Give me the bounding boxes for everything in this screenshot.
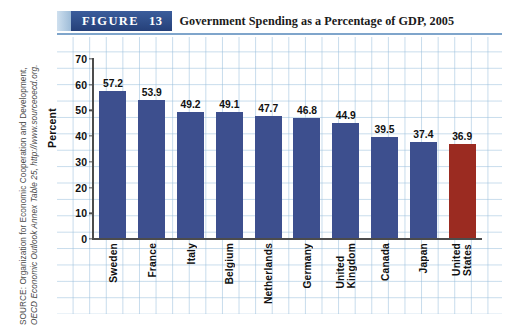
y-tick-mark	[89, 135, 92, 136]
bar-italy: 49.2	[177, 112, 204, 239]
bar-united-states: 36.9	[449, 144, 476, 239]
y-tick-label: 50	[75, 104, 87, 116]
bar-netherlands: 47.7	[255, 116, 282, 239]
x-category-label: States	[462, 243, 473, 276]
y-tick-label: 40	[75, 130, 87, 142]
bar-canada: 39.5	[371, 137, 398, 239]
y-tick-label: 20	[75, 182, 87, 194]
y-tick-label: 10	[75, 207, 87, 219]
figure-badge-number: 13	[149, 14, 163, 29]
x-category-label: United	[451, 243, 462, 276]
figure-title: Government Spending as a Percentage of G…	[172, 11, 502, 31]
y-tick-mark	[89, 58, 92, 59]
y-tick-label: 30	[75, 156, 87, 168]
source-line-2: OECD Economic Outlook Annex Table 25, ht…	[29, 64, 40, 325]
bar-value-label: 53.9	[142, 87, 162, 98]
bar-value-label: 44.9	[336, 110, 356, 121]
bar-value-label: 36.9	[452, 131, 472, 142]
y-tick-mark	[89, 84, 92, 85]
y-tick-label: 60	[75, 79, 87, 91]
x-category-label: Kingdom	[346, 243, 357, 289]
bar-belgium: 49.1	[216, 112, 243, 238]
y-tick-mark	[89, 238, 92, 239]
x-category-label: France	[146, 243, 157, 278]
figure-badge-label: FIGURE	[82, 14, 139, 29]
source-line-1: SOURCE: Organization for Economic Cooper…	[18, 67, 29, 325]
source-note: SOURCE: Organization for Economic Cooper…	[0, 0, 40, 325]
bar-slot: 44.9	[326, 58, 365, 238]
x-category-label: Sweden	[107, 243, 118, 283]
x-category: Belgium	[210, 243, 249, 313]
y-tick-mark	[89, 213, 92, 214]
x-category-label: Japan	[418, 243, 429, 273]
x-category-label: Belgium	[224, 243, 235, 285]
x-category: France	[132, 243, 171, 313]
x-category-label: Italy	[185, 243, 196, 264]
x-category-label: Germany	[301, 243, 312, 289]
bar-slot: 49.2	[171, 58, 210, 238]
x-category: Japan	[404, 243, 443, 313]
x-category: Germany	[288, 243, 327, 313]
y-tick-mark	[89, 161, 92, 162]
bar-series: 57.253.949.249.147.746.844.939.537.436.9	[94, 58, 482, 238]
x-axis-line	[92, 238, 482, 240]
bar-value-label: 37.4	[413, 129, 433, 140]
y-axis-label: Percent	[46, 108, 58, 148]
plot-area: 010203040506070 57.253.949.249.147.746.8…	[92, 58, 482, 240]
bar-slot: 53.9	[132, 58, 171, 238]
bar-france: 53.9	[138, 100, 165, 239]
x-category: Italy	[171, 243, 210, 313]
bar-japan: 37.4	[410, 142, 437, 238]
y-tick-label: 70	[75, 53, 87, 65]
bar-slot: 37.4	[404, 58, 443, 238]
bar-germany: 46.8	[293, 118, 320, 238]
bar-value-label: 49.1	[219, 99, 239, 110]
bar-slot: 39.5	[365, 58, 404, 238]
figure-header: FIGURE 13 Government Spending as a Perce…	[57, 11, 502, 31]
figure-swatch	[57, 11, 71, 31]
figure-screenshot: SOURCE: Organization for Economic Cooper…	[0, 0, 511, 325]
x-category-label: Canada	[379, 243, 390, 281]
bar-value-label: 46.8	[297, 105, 317, 116]
bar-slot: 46.8	[288, 58, 327, 238]
y-tick-label: 0	[81, 233, 87, 245]
figure-rule	[57, 33, 502, 35]
bar-value-label: 47.7	[258, 103, 278, 114]
x-category-label: Netherlands	[263, 243, 274, 304]
bar-sweden: 57.2	[99, 91, 126, 238]
x-category: Netherlands	[249, 243, 288, 313]
bar-value-label: 49.2	[181, 99, 201, 110]
bar-slot: 49.1	[210, 58, 249, 238]
bar-slot: 47.7	[249, 58, 288, 238]
bar-united-kingdom: 44.9	[332, 123, 359, 238]
x-axis-categories: SwedenFranceItalyBelgiumNetherlandsGerma…	[94, 243, 482, 313]
x-category: UnitedKingdom	[326, 243, 365, 313]
x-category: Canada	[365, 243, 404, 313]
x-category-label: United	[335, 243, 346, 289]
figure-badge: FIGURE 13	[71, 11, 172, 31]
y-tick-mark	[89, 187, 92, 188]
bar-slot: 57.2	[94, 58, 133, 238]
bar-value-label: 57.2	[103, 78, 123, 89]
bar-slot: 36.9	[443, 58, 482, 238]
y-tick-mark	[89, 110, 92, 111]
x-category: UnitedStates	[443, 243, 482, 313]
x-category: Sweden	[94, 243, 133, 313]
bar-value-label: 39.5	[375, 124, 395, 135]
